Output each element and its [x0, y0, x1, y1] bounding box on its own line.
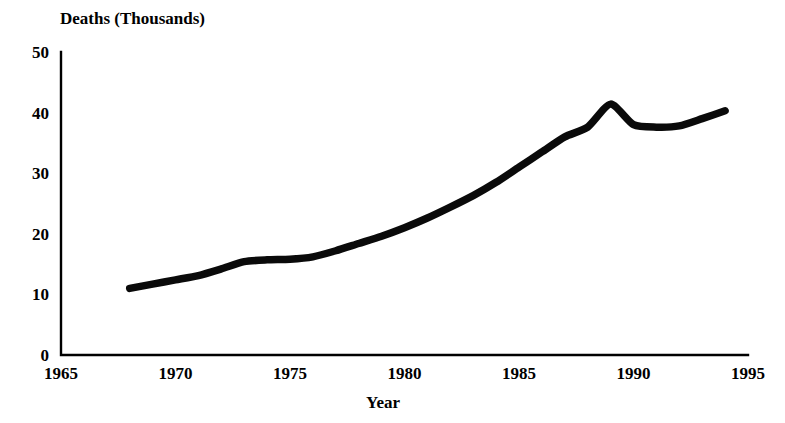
- line-chart: Deaths (Thousands) 01020304050 196519701…: [0, 0, 785, 423]
- y-tick-label-30: 30: [32, 164, 49, 183]
- y-tick-label-50: 50: [32, 43, 49, 62]
- x-tick-label-1980: 1980: [388, 364, 422, 383]
- x-tick-label-1995: 1995: [731, 364, 765, 383]
- y-tick-label-40: 40: [32, 104, 49, 123]
- y-tick-label-20: 20: [32, 225, 49, 244]
- x-tick-label-1985: 1985: [502, 364, 536, 383]
- chart-page: Deaths (Thousands) 01020304050 196519701…: [0, 0, 785, 423]
- y-tick-label-10: 10: [32, 285, 49, 304]
- x-tick-label-1970: 1970: [159, 364, 193, 383]
- x-tick-label-1975: 1975: [273, 364, 307, 383]
- chart-background: [0, 0, 785, 423]
- x-tick-label-1965: 1965: [44, 364, 78, 383]
- x-axis-title: Year: [366, 393, 400, 412]
- x-tick-label-1990: 1990: [617, 364, 651, 383]
- y-axis-title: Deaths (Thousands): [60, 9, 205, 28]
- y-tick-label-0: 0: [41, 346, 50, 365]
